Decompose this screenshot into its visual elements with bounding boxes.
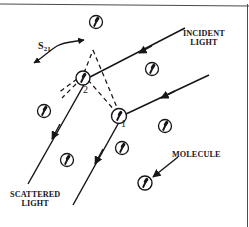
molecule-top — [90, 16, 103, 29]
dashed-line-lower-left — [62, 84, 76, 98]
molecule-1-label: 1 — [121, 119, 126, 130]
incident-ray-1 — [90, 28, 185, 77]
scattered-ray-2 — [73, 124, 118, 205]
separation-vector-label: S21 — [38, 41, 51, 52]
scattered-arrowhead-1-icon — [52, 124, 60, 139]
molecule-scatterer-2 — [76, 71, 90, 85]
molecule-left — [38, 105, 51, 118]
molecule-right — [159, 120, 172, 133]
scattered-arrowhead-2-icon — [95, 149, 103, 164]
molecule-label: MOLECULE — [172, 151, 221, 160]
scattered-arrowheads — [52, 124, 103, 164]
scattered-ray-1 — [28, 83, 85, 184]
molecule-mid-left — [61, 154, 74, 167]
molecule-2-label: 2 — [83, 85, 88, 96]
dashed-line-right — [93, 50, 118, 110]
molecule-upper-right — [146, 63, 159, 76]
molecule-bottom-right — [138, 176, 152, 190]
incident-light-label: INCIDENT LIGHT — [183, 30, 225, 48]
separation-vector-subscript: 21 — [44, 45, 51, 52]
separation-vector-symbol: S — [38, 40, 44, 51]
incident-arrowhead-2-icon — [161, 91, 175, 98]
dashed-line-top — [84, 50, 93, 73]
scattered-light-label: SCATTERED LIGHT — [10, 191, 60, 209]
light-scattering-diagram: INCIDENT LIGHT SCATTERED LIGHT MOLECULE … — [0, 0, 249, 227]
molecule-mid — [116, 142, 129, 155]
molecule-pointer — [153, 157, 178, 177]
molecule-pointer-arrow-icon — [153, 157, 178, 177]
scattered-ray-group — [28, 83, 118, 205]
incident-arrowhead-1-icon — [139, 46, 152, 53]
